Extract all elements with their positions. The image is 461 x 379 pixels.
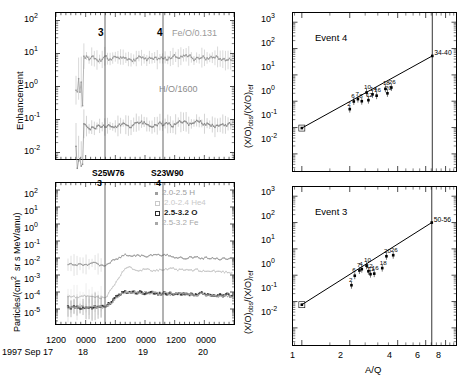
annotation-s25w76: S25W76	[92, 169, 125, 178]
legend-label-o: 2.5-3.2 O	[164, 209, 197, 217]
annotation-s23w90: S23W90	[151, 169, 184, 178]
data-point-1	[299, 125, 305, 131]
int-ytick-1e-3: 10-3	[24, 275, 40, 284]
e3-xtick-8: 8	[436, 351, 441, 360]
ytick-1e2: 102	[24, 15, 38, 24]
legend-item-o: 2.5-3.2 O	[155, 208, 206, 218]
xtick-time-1: 0000	[76, 335, 96, 345]
event-marker-4-label: 4	[157, 28, 163, 38]
int-ytick-1e-5: 10-5	[24, 309, 40, 318]
legend-item-h: 2.0-2.5 H	[155, 188, 206, 198]
legend-marker-o	[155, 211, 160, 216]
e3-ytick-1e-1: 10-1	[261, 284, 277, 293]
ytick-1e-1: 10-1	[24, 114, 40, 123]
event3-xlabel: A/Q	[365, 364, 381, 375]
data-point-2	[350, 282, 353, 289]
corner-label: 50-56	[434, 216, 452, 223]
e4-ytick-1e-1: 10-1	[261, 111, 277, 120]
xtick-time-0: 1200	[46, 335, 66, 345]
intensity-legend: 2.0-2.5 H 2.0-2.4 He4 2.5-3.2 O 2.5-3.2 …	[155, 188, 206, 228]
int-ytick-1e1: 101	[24, 207, 38, 216]
legend-marker-he4	[155, 201, 160, 206]
legend-item-he4: 2.0-2.4 He4	[155, 198, 206, 208]
data-point-50-56	[430, 221, 433, 224]
legend-marker-h	[155, 192, 158, 195]
point-label-6: 6	[352, 266, 356, 273]
ytick-1e-2: 10-2	[24, 147, 40, 156]
figure-root: Enhancement 102 101 100 10-1 10-2	[0, 0, 461, 379]
intensity-plot-frame	[55, 182, 235, 325]
h-o-curve-label: H/O/1600	[159, 85, 198, 94]
panel-enhancement: Enhancement 102 101 100 10-1 10-2	[0, 0, 240, 172]
e4-ytick-1e3: 103	[261, 15, 275, 24]
point-label-2: 2	[349, 276, 353, 283]
xtick-time-3: 0000	[136, 335, 156, 345]
point-label-8: 8	[359, 92, 363, 99]
legend-label-fe: 2.5-3.2 Fe	[162, 219, 198, 227]
data-point-2	[348, 106, 351, 113]
annotation-event4-num: 4	[156, 179, 161, 188]
data-point-1	[299, 302, 305, 308]
ytick-1e1: 101	[24, 48, 38, 57]
e3-ytick-1e0: 100	[261, 260, 275, 269]
data-point-8	[360, 98, 363, 105]
intensity-plot	[56, 183, 234, 324]
point-label-2: 2	[347, 100, 351, 107]
e3-ytick-1e-2: 10-2	[261, 308, 277, 317]
data-point-20	[386, 90, 389, 97]
point-label-18: 18	[380, 259, 387, 266]
e3-xtick-2: 2	[338, 351, 343, 360]
xtick-time-2: 1200	[106, 335, 126, 345]
xaxis-day-20: 20	[198, 347, 208, 357]
ytick-1e0: 100	[24, 81, 38, 90]
data-point-16	[375, 92, 378, 99]
event3-title: Event 3	[315, 206, 347, 217]
data-point-12	[367, 97, 370, 104]
xaxis-day-19: 19	[138, 347, 148, 357]
legend-marker-fe	[155, 222, 158, 225]
legend-item-fe: 2.5-3.2 Fe	[155, 218, 206, 228]
e3-ytick-1e1: 101	[261, 236, 275, 245]
panel-event3: (X/O)obs/(X/O)ref 103 102 101 100 10-1 1…	[235, 186, 461, 379]
corner-label: 34-40	[434, 49, 452, 56]
legend-label-h: 2.0-2.5 H	[162, 189, 195, 197]
point-label-26: 26	[389, 78, 396, 85]
int-ytick-1e-1: 10-1	[24, 241, 40, 250]
point-label-16: 16	[372, 264, 379, 271]
int-ytick-1e-4: 10-4	[24, 292, 40, 301]
event4-title: Event 4	[315, 32, 347, 43]
point-label-16: 16	[374, 86, 381, 93]
e3-xtick-1: 1	[290, 351, 295, 360]
xtick-time-5: 0000	[196, 335, 216, 345]
panel-intensity: Particles/(cm2 sr s MeV/amu) 102 101 100…	[0, 172, 240, 379]
data-point-34-40	[431, 55, 434, 58]
xtick-time-4: 1200	[166, 335, 186, 345]
data-point-26	[392, 252, 395, 259]
e3-xtick-6: 6	[415, 351, 420, 360]
event3-ylabel: (X/O)obs/(X/O)ref	[243, 270, 253, 334]
e3-xtick-4: 4	[387, 351, 392, 360]
annotation-event3-num: 3	[97, 179, 102, 188]
intensity-ylabel: Particles/(cm2 sr s MeV/amu)	[12, 213, 22, 332]
int-ytick-1e2: 102	[24, 190, 38, 199]
int-ytick-1e-2: 10-2	[24, 258, 40, 267]
e4-ytick-1e1: 101	[261, 63, 275, 72]
point-label-26: 26	[391, 246, 398, 253]
int-ytick-1e0: 100	[24, 224, 38, 233]
point-label-4: 4	[359, 260, 363, 267]
xaxis-date-prefix: 1997 Sep 17	[2, 347, 53, 357]
e3-ytick-1e2: 102	[261, 212, 275, 221]
xaxis-day-18: 18	[78, 347, 88, 357]
event4-ylabel: (X/O)obs/(X/O)ref	[243, 84, 253, 148]
event-marker-3-label: 3	[98, 28, 104, 38]
panel-event4: (X/O)obs/(X/O)ref 103 102 101 100 10-1 1…	[235, 0, 461, 190]
e3-ytick-1e3: 103	[261, 188, 275, 197]
data-point-6	[353, 272, 356, 279]
data-point-18	[381, 265, 384, 272]
fe-o-curve-label: Fe/O/0.131	[172, 29, 217, 38]
e4-ytick-1e-2: 10-2	[261, 135, 277, 144]
e4-ytick-1e2: 102	[261, 39, 275, 48]
e4-ytick-1e0: 100	[261, 87, 275, 96]
legend-label-he4: 2.0-2.4 He4	[164, 199, 206, 207]
